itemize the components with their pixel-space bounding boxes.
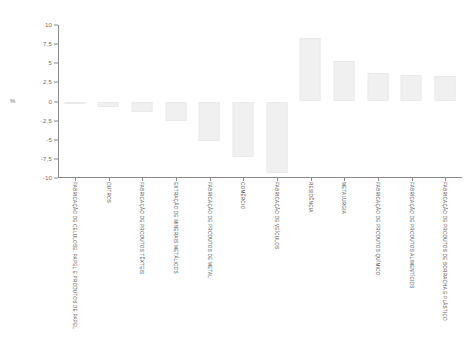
y-tick-mark xyxy=(54,25,58,26)
bar[interactable] xyxy=(401,75,422,101)
bar[interactable] xyxy=(367,73,388,101)
bar[interactable] xyxy=(334,61,355,102)
x-tick-mark xyxy=(176,177,177,181)
y-tick-mark xyxy=(54,158,58,159)
x-tick-label: METALURGIA xyxy=(341,182,346,214)
x-tick-mark xyxy=(109,177,110,181)
y-tick-label: -2,5 xyxy=(41,118,52,124)
x-tick-label: RESIDÊNCIA xyxy=(308,182,313,213)
bar-slot xyxy=(260,25,294,178)
bar-slot xyxy=(327,25,361,178)
bar[interactable] xyxy=(266,102,287,173)
bar-slot xyxy=(395,25,429,178)
x-tick-label: FABRICAÇÃO DE VEÍCULOS xyxy=(274,182,279,249)
y-tick-label: 0 xyxy=(48,99,52,105)
x-tick-label: COMÉRCIO xyxy=(240,182,245,209)
x-tick-mark xyxy=(142,177,143,181)
y-tick-mark xyxy=(54,120,58,121)
bar-chart: % 107,552,50-2,5-5-7,5-10 FABRICAÇÃO DE … xyxy=(0,0,472,345)
bar[interactable] xyxy=(199,102,220,141)
x-tick-label: FABRICAÇÃO DE PRODUTOS DE METAL xyxy=(207,182,212,278)
bar-slot xyxy=(159,25,193,178)
x-tick-mark xyxy=(75,177,76,181)
y-tick-mark xyxy=(54,178,58,179)
x-tick-label: FABRICAÇÃO DE PRODUTOS QUÍMICO xyxy=(375,182,380,275)
x-tick-label: FABRICAÇÃO DE PRODUTOS ALIMENTÍCIOS xyxy=(409,182,414,289)
bar-slot xyxy=(58,25,92,178)
bar-slot xyxy=(193,25,227,178)
y-tick-mark xyxy=(54,82,58,83)
y-tick-label: -10 xyxy=(43,175,52,181)
bar-slot xyxy=(125,25,159,178)
bar-slot xyxy=(294,25,328,178)
x-tick-mark xyxy=(277,177,278,181)
x-tick-label: FABRICAÇÃO DE CELULOSE, PAPEL E PRODUTOS… xyxy=(72,182,77,329)
x-tick-label: FABRICAÇÃO DE PRODUTOS DE BORRACHA E PLÁ… xyxy=(442,182,447,321)
bar-slot xyxy=(226,25,260,178)
y-tick-mark xyxy=(54,63,58,64)
y-tick-mark xyxy=(54,44,58,45)
bar[interactable] xyxy=(98,102,119,107)
bar[interactable] xyxy=(233,102,254,158)
bar[interactable] xyxy=(132,102,153,113)
x-tick-label: OUTROS xyxy=(106,182,111,203)
y-tick-label: 7,5 xyxy=(43,41,52,47)
bar-slot xyxy=(361,25,395,178)
x-tick-label: FABRICAÇÃO DE PRODUTOS TÊXTEIS xyxy=(139,182,144,274)
bar[interactable] xyxy=(64,102,85,104)
x-tick-mark xyxy=(344,177,345,181)
bar[interactable] xyxy=(300,38,321,101)
x-tick-mark xyxy=(311,177,312,181)
x-tick-mark xyxy=(412,177,413,181)
y-tick-label: 10 xyxy=(45,22,52,28)
bar-slot xyxy=(92,25,126,178)
y-axis-tick-labels: 107,552,50-2,5-5-7,5-10 xyxy=(0,0,52,345)
y-tick-label: 5 xyxy=(48,60,52,66)
x-tick-label: EXTRAÇÃO DE MINERAIS METÁLICOS xyxy=(173,182,178,274)
y-tick-label: -7,5 xyxy=(41,156,52,162)
x-tick-mark xyxy=(210,177,211,181)
bar[interactable] xyxy=(165,102,186,122)
bar[interactable] xyxy=(435,76,456,101)
y-tick-mark xyxy=(54,139,58,140)
y-tick-label: 2,5 xyxy=(43,79,52,85)
y-tick-mark xyxy=(54,101,58,102)
bar-slot xyxy=(428,25,462,178)
bars-group xyxy=(58,25,462,178)
x-tick-mark xyxy=(243,177,244,181)
x-tick-mark xyxy=(445,177,446,181)
x-tick-mark xyxy=(378,177,379,181)
y-tick-label: -5 xyxy=(46,137,52,143)
